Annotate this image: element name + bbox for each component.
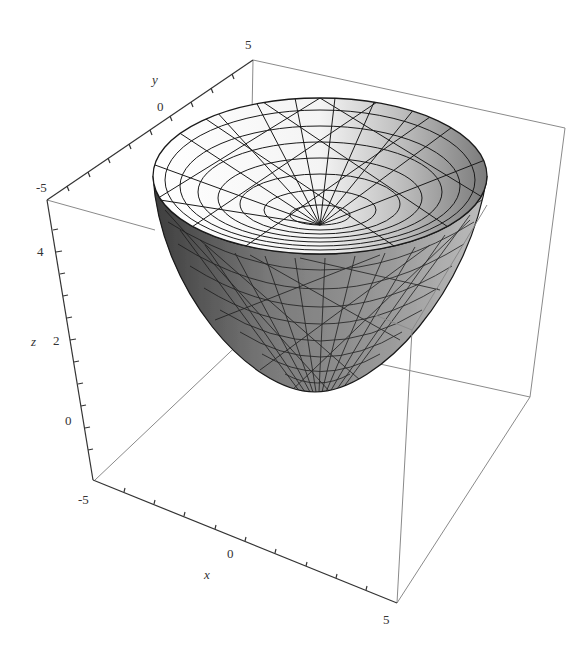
x-tick-mid: 0	[227, 547, 234, 560]
x-tick-max: 5	[383, 613, 390, 626]
z-tick-4: 4	[37, 245, 44, 258]
y-tick-min: -5	[36, 181, 47, 194]
x-axis-label: x	[204, 568, 210, 581]
x-tick-min: -5	[78, 493, 89, 506]
paraboloid-3d-plot	[0, 0, 585, 660]
z-axis-label: z	[31, 335, 36, 348]
y-tick-max: 5	[245, 38, 252, 51]
paraboloid-interior	[153, 98, 487, 254]
z-tick-2: 2	[53, 334, 60, 347]
y-axis-label: y	[152, 73, 158, 86]
y-tick-mid: 0	[157, 100, 164, 113]
x-axis-line	[93, 480, 397, 603]
z-tick-0: 0	[65, 414, 72, 427]
